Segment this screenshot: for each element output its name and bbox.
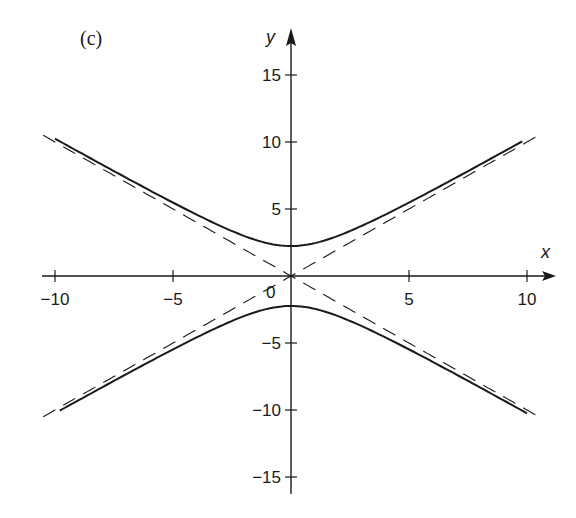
axes xyxy=(42,28,556,494)
y-tick-label: 15 xyxy=(262,66,281,85)
hyperbola-branch-1 xyxy=(60,306,527,413)
panel-label: (c) xyxy=(80,27,102,50)
y-tick-label: −5 xyxy=(262,334,281,353)
origin-label: 0 xyxy=(266,283,275,302)
x-tick-label: 5 xyxy=(404,290,413,309)
y-tick-label: −15 xyxy=(252,468,281,487)
y-axis-label: y xyxy=(264,27,276,47)
x-axis-label: x xyxy=(540,242,551,262)
hyperbola-branch-0 xyxy=(55,139,522,246)
x-tick-label: 10 xyxy=(518,290,537,309)
y-tick-label: 5 xyxy=(272,200,281,219)
hyperbola-plot: −10−5510−15−10−551015 (c) y x 0 xyxy=(0,0,576,518)
y-tick-label: 10 xyxy=(262,133,281,152)
x-tick-label: −10 xyxy=(41,290,70,309)
y-tick-label: −10 xyxy=(252,401,281,420)
x-tick-label: −5 xyxy=(163,290,182,309)
